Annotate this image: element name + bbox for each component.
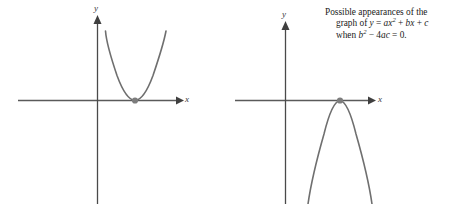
- parabola-discriminant-figure: x y x y Possible appearances of the grap…: [0, 0, 469, 204]
- right-x-axis-arrowhead: [368, 97, 376, 105]
- right-y-axis-label: y: [282, 10, 286, 19]
- caption-line-3: when b2 − 4ac = 0.: [325, 30, 469, 41]
- left-parabola-curve: [106, 31, 167, 101]
- caption-line-2: graph of y = ax2 + bx + c: [325, 18, 469, 29]
- left-y-axis-arrowhead: [94, 15, 102, 24]
- left-x-axis-label: x: [185, 95, 189, 104]
- left-vertex-dot: [132, 97, 138, 103]
- figure-caption: Possible appearances of the graph of y =…: [325, 7, 469, 41]
- caption-line-1: Possible appearances of the: [325, 7, 469, 18]
- panel-upward-parabola: x y: [0, 0, 234, 204]
- left-x-axis-arrowhead: [176, 97, 184, 105]
- right-parabola-curve: [308, 101, 372, 205]
- left-y-axis-label: y: [94, 4, 98, 13]
- right-vertex-dot: [337, 97, 343, 103]
- right-x-axis-label: x: [378, 95, 382, 104]
- right-y-axis-arrowhead: [282, 21, 290, 30]
- left-coordinate-system: [0, 0, 234, 204]
